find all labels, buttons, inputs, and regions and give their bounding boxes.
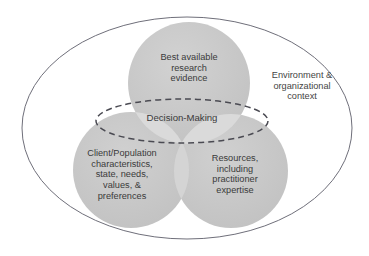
venn-diagram-figure: Best available research evidence Decisio… [0,0,369,256]
venn-diagram-canvas [0,0,369,256]
